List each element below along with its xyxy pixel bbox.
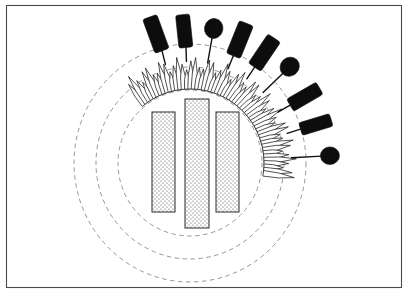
- figure-root: [0, 0, 408, 293]
- center-bar: [185, 99, 209, 228]
- left-bar: [152, 112, 175, 212]
- central-stippled-bars: [152, 99, 239, 228]
- right-bar: [216, 112, 239, 212]
- diagram-canvas: [0, 0, 408, 293]
